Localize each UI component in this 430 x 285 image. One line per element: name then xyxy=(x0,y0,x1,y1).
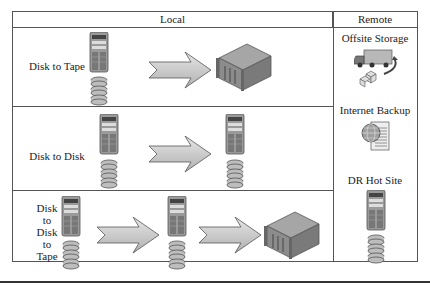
disk-stack-icon xyxy=(366,234,386,264)
arrow-icon xyxy=(199,217,263,255)
row-label-disk-to-disk: Disk to Disk xyxy=(23,150,91,162)
tape-library-icon xyxy=(215,40,275,94)
row-divider xyxy=(13,106,333,107)
remote-label-offsite-storage: Offsite Storage xyxy=(333,32,417,44)
disk-stack-icon xyxy=(99,159,119,189)
disk-stack-icon xyxy=(61,240,81,270)
remote-label-internet-backup: Internet Backup xyxy=(333,104,417,116)
disk-stack-icon xyxy=(89,76,109,106)
local-header: Local xyxy=(13,12,333,28)
server-icon xyxy=(167,196,187,238)
truck-boxes-icon xyxy=(354,48,400,88)
server-icon xyxy=(99,114,119,156)
remote-header: Remote xyxy=(333,12,417,28)
column-divider xyxy=(333,12,334,261)
row-divider xyxy=(13,190,333,191)
row-label-disk-to-tape: Disk to Tape xyxy=(23,60,91,72)
row-label-disk-to-disk-to-tape: Disk to Disk to Tape xyxy=(31,202,63,262)
server-icon xyxy=(225,114,245,156)
arrow-icon xyxy=(149,52,213,90)
arrow-icon xyxy=(149,136,213,174)
arrow-icon xyxy=(97,217,161,255)
disk-stack-icon xyxy=(167,240,187,270)
server-icon xyxy=(366,190,386,232)
server-icon xyxy=(89,32,109,74)
tape-library-icon xyxy=(263,208,323,262)
server-icon xyxy=(61,196,81,238)
remote-label-dr-hot-site: DR Hot Site xyxy=(333,174,417,186)
disk-stack-icon xyxy=(225,159,245,189)
globe-document-icon xyxy=(361,120,391,154)
bottom-rule xyxy=(0,281,430,283)
backup-diagram-table: Local Remote Disk to Tape Disk to Disk D… xyxy=(12,11,418,262)
